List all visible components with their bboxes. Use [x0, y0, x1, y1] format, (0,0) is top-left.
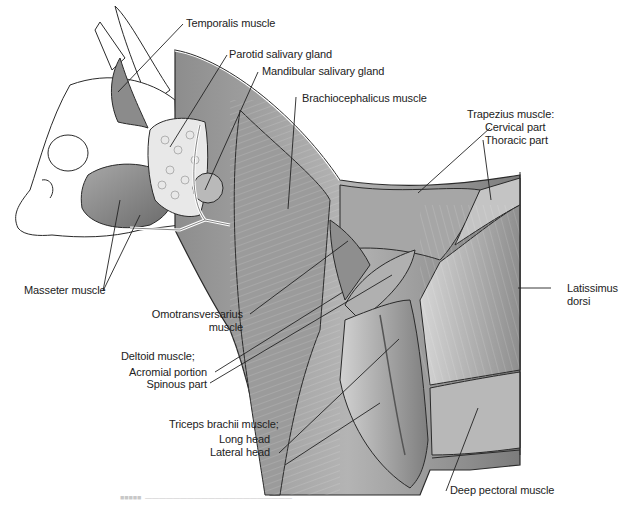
- label-triceps-lateral: Lateral head: [180, 446, 270, 459]
- label-omotransversarius-2: muscle: [130, 321, 243, 334]
- label-triceps-title: Triceps brachii muscle;: [169, 418, 279, 431]
- label-latissimus-1: Latissimus: [567, 282, 618, 295]
- label-brachiocephalicus: Brachiocephalicus muscle: [302, 92, 427, 105]
- label-omotransversarius-1: Omotransversarius: [130, 308, 243, 321]
- label-trapezius-title: Trapezius muscle:: [467, 108, 554, 121]
- label-deltoid-spinous: Spinous part: [100, 378, 207, 391]
- label-latissimus-2: dorsi: [567, 295, 590, 308]
- label-parotid-gland: Parotid salivary gland: [229, 48, 332, 61]
- figure-caption: ■■■■■ —————————————————————: [120, 494, 292, 501]
- label-temporalis: Temporalis muscle: [186, 17, 275, 30]
- label-trapezius-thoracic: Thoracic part: [485, 134, 548, 147]
- label-deltoid-title: Deltoid muscle;: [121, 350, 195, 363]
- label-deep-pectoral: Deep pectoral muscle: [450, 484, 554, 497]
- label-triceps-long: Long head: [180, 433, 270, 446]
- label-masseter: Masseter muscle: [24, 284, 106, 297]
- label-mandibular-gland: Mandibular salivary gland: [262, 65, 384, 78]
- label-trapezius-cervical: Cervical part: [485, 121, 545, 134]
